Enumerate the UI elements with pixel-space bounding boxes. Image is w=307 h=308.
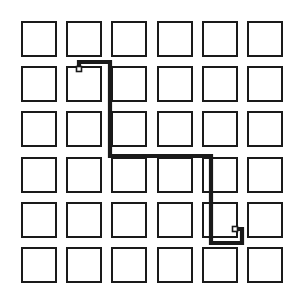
start-marker-icon[interactable] bbox=[77, 67, 82, 72]
route-path[interactable] bbox=[79, 62, 242, 243]
path-layer bbox=[0, 0, 307, 308]
figure-canvas bbox=[0, 0, 307, 308]
end-marker-icon[interactable] bbox=[233, 227, 238, 232]
